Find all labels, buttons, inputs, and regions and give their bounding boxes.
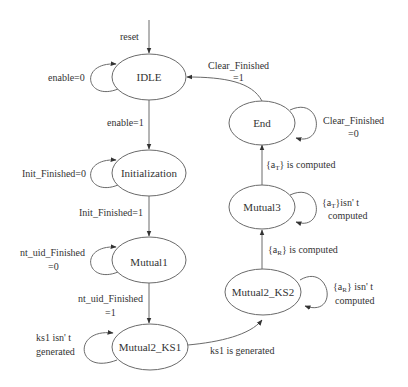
transition-label-reset: reset — [120, 31, 139, 42]
transition-label-end-self-line2: =0 — [348, 128, 359, 139]
state-mutual1: Mutual1 — [112, 237, 186, 283]
transition-label-end-self-line1: Clear_Finished — [323, 115, 384, 126]
state-label-idle: IDLE — [136, 71, 161, 83]
transition-label-ks2-self-line1: {aR} isn' t — [333, 281, 373, 294]
state-label-mutual3: Mutual3 — [243, 201, 281, 213]
state-label-mutual1: Mutual1 — [130, 256, 167, 268]
transition-ks1-ks2: ks1 is generated — [188, 320, 274, 356]
state-mutual3: Mutual3 — [229, 185, 295, 229]
transition-init-self: Init_Finished=0 — [22, 160, 118, 188]
transition-end-self: Clear_Finished =0 — [290, 107, 384, 139]
transition-label-ks2-mutual3: {aR} is computed — [268, 244, 338, 257]
state-diagram: reset enable=0 enable=1 Init_Finished=0 … — [0, 0, 408, 387]
transition-idle-self: enable=0 — [48, 64, 118, 92]
transition-mutual1-self: nt_uid_Finished =0 — [20, 247, 118, 275]
transition-label-idle-init: enable=1 — [107, 117, 144, 128]
state-mutual2-ks2: Mutual2_KS2 — [225, 269, 301, 315]
state-label-initialization: Initialization — [121, 167, 178, 179]
transition-mutual3-self: {aT}isn' t computed — [290, 192, 367, 223]
transition-label-end-idle-line2: =1 — [233, 72, 244, 83]
transition-label-mutual1-self-line1: nt_uid_Finished — [20, 247, 85, 258]
transition-label-ks1-self-line1: ks1 isn' t — [36, 332, 71, 343]
transition-init-mutual1: Init_Finished=1 — [79, 196, 149, 236]
transition-label-mutual3-self-line2: computed — [328, 210, 367, 221]
transition-label-mutual1-self-line2: =0 — [48, 261, 59, 272]
transition-label-idle-self: enable=0 — [48, 72, 85, 83]
state-idle: IDLE — [112, 54, 186, 100]
transition-mutual1-ks1: nt_uid_Finished =1 — [78, 283, 149, 323]
state-label-end: End — [253, 117, 271, 129]
state-end: End — [229, 101, 295, 145]
transition-label-mutual1-ks1-line1: nt_uid_Finished — [78, 293, 143, 304]
transition-label-mutual3-self-line1: {aT}isn' t — [322, 197, 359, 210]
transition-ks2-mutual3: {aR} is computed — [262, 230, 338, 269]
transition-ks1-self: ks1 isn' t generated — [36, 332, 117, 363]
transition-idle-init: enable=1 — [107, 100, 149, 149]
transition-label-mutual1-ks1-line2: =1 — [105, 307, 116, 318]
transition-label-init-self: Init_Finished=0 — [22, 168, 86, 179]
transition-ks2-self: {aR} isn' t computed — [300, 276, 374, 307]
state-initialization: Initialization — [112, 150, 186, 196]
transition-label-ks2-self-line2: computed — [335, 295, 374, 306]
transition-end-idle: Clear_Finished =1 — [187, 60, 269, 101]
transition-mutual3-end: {aT} is computed — [262, 145, 335, 185]
state-label-mutual2-ks2: Mutual2_KS2 — [232, 286, 294, 298]
transition-label-mutual3-end: {aT} is computed — [266, 159, 335, 172]
transition-label-init-mutual1: Init_Finished=1 — [79, 207, 143, 218]
transition-label-end-idle-line1: Clear_Finished — [208, 60, 269, 71]
transition-reset: reset — [120, 20, 149, 53]
state-mutual2-ks1: Mutual2_KS1 — [112, 324, 188, 370]
transition-label-ks1-self-line2: generated — [36, 346, 75, 357]
state-label-mutual2-ks1: Mutual2_KS1 — [119, 341, 181, 353]
transition-label-ks1-ks2: ks1 is generated — [210, 345, 274, 356]
